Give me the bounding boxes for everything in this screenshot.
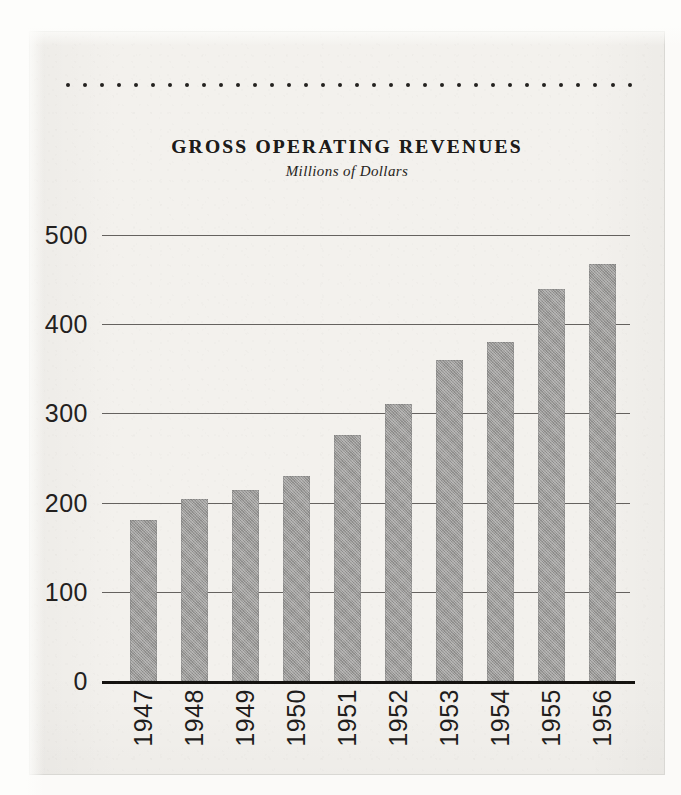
- bar: [538, 289, 565, 681]
- bar-slot: [589, 235, 616, 681]
- ornament-dot: [287, 83, 291, 87]
- ornament-dot: [321, 83, 325, 87]
- x-axis-tick-label: 1948: [180, 689, 209, 747]
- dotted-rule-ornament: [66, 80, 632, 90]
- ornament-dot: [134, 83, 138, 87]
- bar-slot: [283, 235, 310, 681]
- ornament-dot: [542, 83, 546, 87]
- ornament-dot: [304, 83, 308, 87]
- x-axis-tick-label: 1954: [486, 689, 515, 747]
- bar: [589, 264, 616, 681]
- ornament-dot: [338, 83, 342, 87]
- bar: [181, 499, 208, 681]
- x-label-slot: 1952: [385, 689, 412, 747]
- y-axis-tick-label: 300: [45, 399, 88, 428]
- bar-slot: [385, 235, 412, 681]
- bar-slot: [232, 235, 259, 681]
- ornament-dot: [355, 83, 359, 87]
- y-axis-tick-label: 400: [45, 310, 88, 339]
- x-axis-tick-label: 1949: [231, 689, 260, 747]
- x-label-slot: 1951: [334, 689, 361, 747]
- x-label-slot: 1949: [232, 689, 259, 747]
- bar: [385, 404, 412, 681]
- x-axis-tick-label: 1953: [435, 689, 464, 747]
- bar: [232, 490, 259, 681]
- x-label-slot: 1955: [538, 689, 565, 747]
- ornament-dot: [253, 83, 257, 87]
- ornament-dot: [151, 83, 155, 87]
- ornament-dot: [100, 83, 104, 87]
- ornament-dot: [611, 83, 615, 87]
- ornament-dot: [219, 83, 223, 87]
- ornament-dot: [508, 83, 512, 87]
- ornament-dot: [525, 83, 529, 87]
- bar: [487, 342, 514, 681]
- x-label-slot: 1953: [436, 689, 463, 747]
- chart-heading-block: GROSS OPERATING REVENUES Millions of Dol…: [30, 136, 664, 180]
- y-axis-tick-label: 0: [74, 667, 88, 696]
- x-axis-tick-label: 1947: [129, 689, 158, 747]
- ornament-dot: [66, 83, 70, 87]
- bar-slot: [436, 235, 463, 681]
- bar: [130, 520, 157, 681]
- x-axis-tick-labels: 1947194819491950195119521953195419551956: [130, 689, 616, 747]
- ornament-dot: [576, 83, 580, 87]
- ornament-dot: [236, 83, 240, 87]
- chart-subtitle: Millions of Dollars: [30, 163, 664, 180]
- ornament-dot: [168, 83, 172, 87]
- y-axis-tick-label: 500: [45, 221, 88, 250]
- bar-slot: [487, 235, 514, 681]
- y-axis-tick-label: 100: [45, 577, 88, 606]
- ornament-dot: [389, 83, 393, 87]
- axis-baseline: [102, 681, 635, 684]
- bar-slot: [538, 235, 565, 681]
- x-axis-tick-label: 1952: [384, 689, 413, 747]
- bar-slot: [181, 235, 208, 681]
- ornament-dot: [406, 83, 410, 87]
- bar: [436, 360, 463, 681]
- bar-series: [130, 235, 616, 681]
- ornament-dot: [474, 83, 478, 87]
- x-axis-tick-label: 1951: [333, 689, 362, 747]
- plot-area: 0100200300400500: [102, 235, 630, 681]
- ornament-dot: [440, 83, 444, 87]
- ornament-dot: [628, 83, 632, 87]
- bar: [334, 435, 361, 681]
- x-label-slot: 1956: [589, 689, 616, 747]
- bar-slot: [130, 235, 157, 681]
- ornament-dot: [117, 83, 121, 87]
- ornament-dot: [559, 83, 563, 87]
- chart-title: GROSS OPERATING REVENUES: [30, 136, 664, 158]
- ornament-dot: [270, 83, 274, 87]
- ornament-dot: [491, 83, 495, 87]
- ornament-dot: [457, 83, 461, 87]
- bar: [283, 476, 310, 681]
- x-label-slot: 1947: [130, 689, 157, 747]
- ornament-dot: [372, 83, 376, 87]
- ornament-dot: [423, 83, 427, 87]
- ornament-dot: [593, 83, 597, 87]
- x-label-slot: 1950: [283, 689, 310, 747]
- bar-slot: [334, 235, 361, 681]
- ornament-dot: [185, 83, 189, 87]
- bar-chart: 0100200300400500 19471948194919501951195…: [102, 203, 630, 713]
- ornament-dot: [202, 83, 206, 87]
- x-axis-tick-label: 1950: [282, 689, 311, 747]
- ornament-dot: [83, 83, 87, 87]
- y-axis-tick-label: 200: [45, 488, 88, 517]
- x-axis-tick-label: 1956: [588, 689, 617, 747]
- scanned-page-image: GROSS OPERATING REVENUES Millions of Dol…: [0, 0, 681, 795]
- x-label-slot: 1954: [487, 689, 514, 747]
- printed-page: GROSS OPERATING REVENUES Millions of Dol…: [30, 32, 664, 774]
- x-axis-tick-label: 1955: [537, 689, 566, 747]
- x-label-slot: 1948: [181, 689, 208, 747]
